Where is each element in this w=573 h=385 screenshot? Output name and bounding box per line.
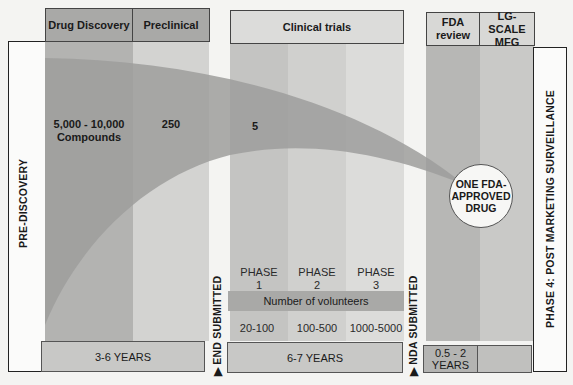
compounds-count: 5,000 - 10,000 Compounds: [45, 118, 133, 144]
phase-2-volunteers: 100-500: [288, 322, 346, 334]
phase-3-volunteers: 1000-5000: [346, 322, 406, 334]
triangle-marker-icon: ▶: [211, 368, 223, 376]
fda-review-header: FDA review: [426, 12, 480, 46]
phase-1-label: PHASE1: [230, 266, 288, 292]
approved-drug-circle: ONE FDA- APPROVED DRUG: [449, 164, 513, 228]
nda-submitted-label: ▶ NDA SUBMITTED: [407, 276, 419, 376]
volunteers-bar: Number of volunteers: [228, 291, 404, 311]
preclinical-count: 250: [133, 118, 209, 130]
phase-1-volunteers: 20-100: [228, 322, 286, 334]
phase-2-label: PHASE2: [288, 266, 346, 292]
drug-discovery-header: Drug Discovery: [45, 8, 133, 42]
phase-3-label: PHASE3: [346, 266, 406, 292]
mfg-duration: [477, 345, 532, 373]
end-submitted-label: ▶ END SUBMITTED: [211, 276, 223, 376]
preclinical-header: Preclinical: [132, 8, 210, 42]
triangle-marker-icon: ▶: [407, 368, 419, 376]
lg-scale-mfg-header: LG-SCALE MFG: [479, 12, 535, 46]
clinical-count: 5: [252, 120, 258, 132]
discovery-duration: 3-6 YEARS: [41, 341, 205, 372]
clinical-trials-header: Clinical trials: [230, 10, 404, 44]
fda-duration: 0.5 - 2 YEARS: [423, 345, 478, 373]
clinical-duration: 6-7 YEARS: [227, 342, 403, 373]
